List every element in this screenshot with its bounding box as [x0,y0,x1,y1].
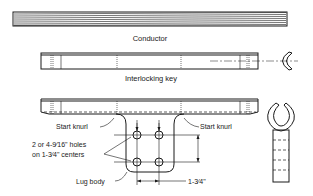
start-knurl-right-label: Start knurl [200,123,232,130]
conductor-drawing [13,12,287,26]
holes-note-line2: on 1-3⁄4" centers [32,151,85,158]
conductor-label: Conductor [133,34,168,43]
connector-assembly-diagram: Conductor Interlocking key [0,0,313,196]
interlocking-key-label: Interlocking key [125,74,177,83]
dimension-label: 1-3⁄4" [188,178,206,185]
interlocking-key-drawing [41,52,298,70]
holes-note-line1: 2 or 4-9⁄16" holes [32,141,87,148]
lug-body-label: Lug body [76,178,105,186]
start-knurl-left-label: Start knurl [56,123,88,130]
